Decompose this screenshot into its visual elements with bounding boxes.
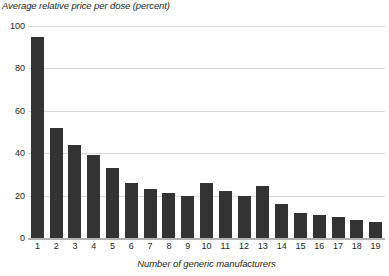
gridline [28, 68, 385, 69]
x-axis-tick-label: 2 [47, 241, 65, 251]
bar [332, 217, 345, 238]
bar [106, 168, 119, 238]
x-axis-tick-label: 13 [254, 241, 272, 251]
x-axis-tick-label: 9 [179, 241, 197, 251]
bar [294, 213, 307, 238]
x-axis-tick-label: 15 [291, 241, 309, 251]
bar [144, 189, 157, 238]
bar [50, 128, 63, 238]
bar [275, 204, 288, 238]
bar [256, 186, 269, 238]
y-axis-tick-label: 60 [1, 106, 25, 116]
y-axis-tick-label: 80 [1, 63, 25, 73]
bar [350, 220, 363, 238]
x-axis-tick-label: 6 [122, 241, 140, 251]
x-axis-tick-label: 12 [235, 241, 253, 251]
y-axis: 020406080100 [0, 26, 25, 238]
x-axis-line [28, 238, 385, 240]
x-axis-tick-label: 18 [348, 241, 366, 251]
x-axis-tick-label: 16 [310, 241, 328, 251]
bar [87, 155, 100, 238]
x-axis-tick-label: 5 [104, 241, 122, 251]
bar [68, 145, 81, 238]
bar [219, 191, 232, 238]
bar [200, 183, 213, 238]
x-axis-tick-label: 11 [216, 241, 234, 251]
x-axis-tick-label: 10 [198, 241, 216, 251]
chart-page: Average relative price per dose (percent… [0, 0, 389, 276]
bar [181, 196, 194, 238]
bar [125, 183, 138, 238]
x-axis: 12345678910111213141516171819 [28, 241, 385, 255]
bar [238, 196, 251, 238]
bar [31, 37, 44, 238]
x-axis-tick-label: 4 [85, 241, 103, 251]
x-axis-tick-label: 17 [329, 241, 347, 251]
plot-area [28, 26, 385, 238]
x-axis-tick-label: 3 [66, 241, 84, 251]
chart-title: Average relative price per dose (percent… [2, 0, 170, 11]
x-axis-tick-label: 1 [28, 241, 46, 251]
y-axis-tick-label: 0 [1, 233, 25, 243]
y-axis-tick-label: 40 [1, 148, 25, 158]
bar [313, 215, 326, 238]
x-axis-tick-label: 19 [367, 241, 385, 251]
x-axis-tick-label: 8 [160, 241, 178, 251]
gridline [28, 111, 385, 112]
x-axis-tick-label: 7 [141, 241, 159, 251]
bar [369, 222, 382, 238]
gridline [28, 26, 385, 27]
bar [162, 193, 175, 238]
x-axis-title: Number of generic manufacturers [28, 258, 385, 269]
y-axis-tick-label: 20 [1, 191, 25, 201]
y-axis-tick-label: 100 [1, 21, 25, 31]
gridline [28, 153, 385, 154]
x-axis-tick-label: 14 [273, 241, 291, 251]
